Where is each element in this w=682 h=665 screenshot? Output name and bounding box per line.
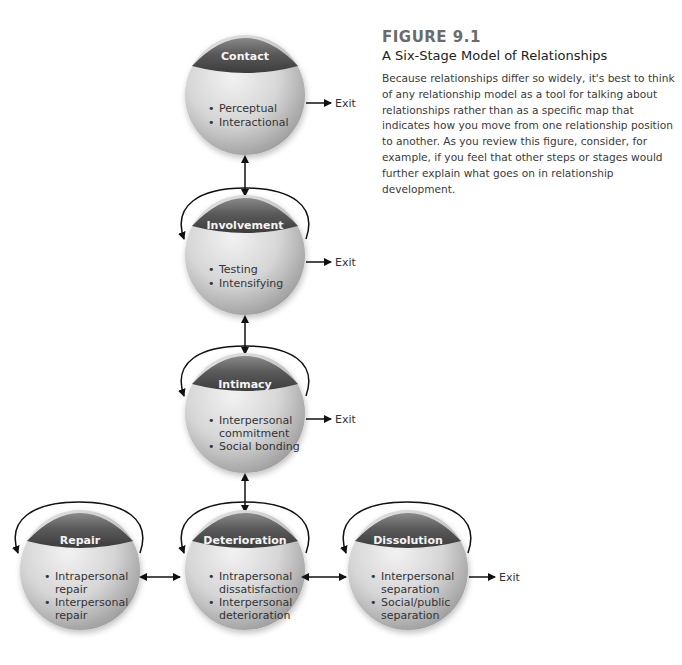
stage-item: Intrapersonal <box>55 570 128 583</box>
stage-contact: Contact • Perceptual • Interactional <box>185 35 305 155</box>
stage-item: commitment <box>219 427 290 440</box>
exit-contact: Exit <box>306 97 357 110</box>
svg-text:•: • <box>208 570 215 583</box>
exit-label: Exit <box>335 256 357 269</box>
stage-item: separation <box>381 609 440 622</box>
stage-item: repair <box>55 609 88 622</box>
stage-dissolution: Dissolution • Interpersonal separation •… <box>343 502 471 630</box>
figure-number: FIGURE 9.1 <box>382 28 682 46</box>
svg-text:•: • <box>208 263 215 276</box>
stage-intimacy: Intimacy • Interpersonal commitment • So… <box>181 346 309 473</box>
stage-item: Interactional <box>219 116 288 129</box>
svg-text:•: • <box>208 414 215 427</box>
svg-text:•: • <box>208 277 215 290</box>
figure-caption: FIGURE 9.1 A Six-Stage Model of Relation… <box>382 28 682 197</box>
svg-text:•: • <box>370 596 377 609</box>
stage-item: Testing <box>218 263 258 276</box>
stage-involvement: Involvement • Testing • Intensifying <box>181 188 309 315</box>
svg-text:•: • <box>44 570 51 583</box>
svg-text:•: • <box>208 596 215 609</box>
svg-text:•: • <box>370 570 377 583</box>
stage-title-repair: Repair <box>60 534 101 547</box>
exit-label: Exit <box>335 97 357 110</box>
stage-item: Perceptual <box>219 102 277 115</box>
exit-label: Exit <box>499 571 521 584</box>
stage-item: Interpersonal <box>381 570 454 583</box>
svg-text:•: • <box>44 596 51 609</box>
stage-item: separation <box>381 583 440 596</box>
stage-item: Intrapersonal <box>219 570 292 583</box>
stage-item: repair <box>55 583 88 596</box>
exit-involvement: Exit <box>306 256 357 269</box>
figure-description: Because relationships differ so widely, … <box>382 71 682 197</box>
stage-repair: Repair • Intrapersonal repair • Interper… <box>15 502 143 630</box>
svg-text:•: • <box>208 440 215 453</box>
stage-title-intimacy: Intimacy <box>218 378 272 391</box>
stage-title-contact: Contact <box>221 50 269 63</box>
stage-title-involvement: Involvement <box>206 219 283 232</box>
stage-item: Interpersonal <box>219 414 292 427</box>
stage-item: Interpersonal <box>55 596 128 609</box>
figure-title: A Six-Stage Model of Relationships <box>382 48 682 63</box>
exit-intimacy: Exit <box>306 413 357 426</box>
stage-item: Social bonding <box>219 440 300 453</box>
exit-dissolution: Exit <box>469 571 521 584</box>
stage-item: deterioration <box>219 609 291 622</box>
svg-text:•: • <box>208 102 215 115</box>
stage-item: Interpersonal <box>219 596 292 609</box>
stage-title-deterioration: Deterioration <box>203 534 286 547</box>
stage-item: Intensifying <box>219 277 283 290</box>
svg-text:•: • <box>208 116 215 129</box>
exit-label: Exit <box>335 413 357 426</box>
stage-item: dissatisfaction <box>219 583 298 596</box>
stage-deterioration: Deterioration • Intrapersonal dissatisfa… <box>181 502 309 630</box>
stage-title-dissolution: Dissolution <box>373 534 443 547</box>
stage-item: Social/public <box>381 596 450 609</box>
